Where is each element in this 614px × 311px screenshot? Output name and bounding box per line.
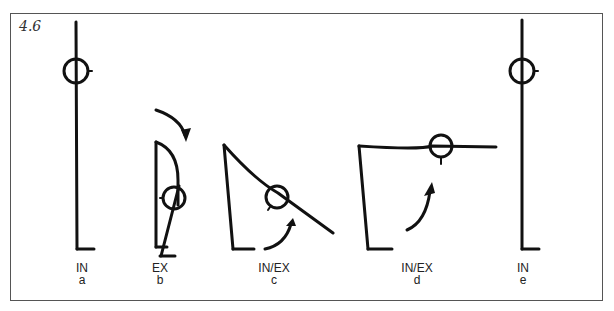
arrow-head-icon xyxy=(286,218,296,226)
panel-d-letter: d xyxy=(387,274,447,286)
panel-c-label: IN/EX c xyxy=(244,262,304,286)
panel-b-label: EX b xyxy=(130,262,190,286)
panel-b-letter: b xyxy=(130,274,190,286)
panel-e-drawing xyxy=(510,20,539,249)
panel-a-label: IN a xyxy=(52,262,112,286)
panel-a-drawing xyxy=(64,22,94,249)
panel-a-letter: a xyxy=(52,274,112,286)
panel-d-label: IN/EX d xyxy=(387,262,447,286)
panel-c-drawing xyxy=(224,145,333,249)
panel-b-drawing xyxy=(156,110,191,256)
arrow-head-icon xyxy=(181,128,191,142)
panel-c-letter: c xyxy=(244,274,304,286)
panel-d-drawing xyxy=(359,135,496,249)
panel-e-letter: e xyxy=(493,274,553,286)
arrow-head-icon xyxy=(424,182,435,196)
panel-e-label: IN e xyxy=(493,262,553,286)
